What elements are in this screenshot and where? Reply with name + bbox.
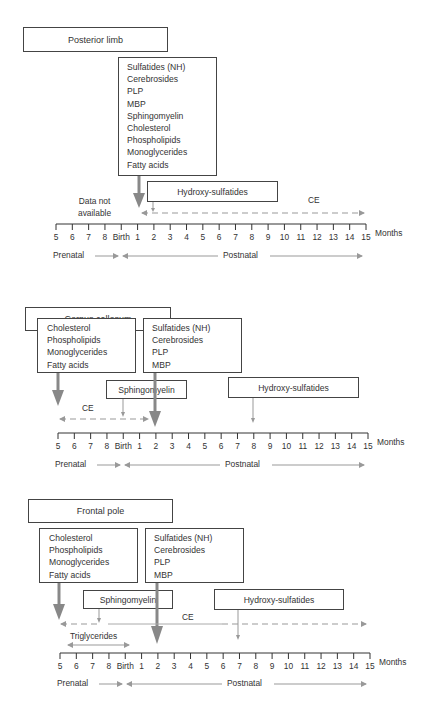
axis-tick-label: 5 [58,661,63,671]
axis-tick-label: 8 [249,232,254,242]
axis-tick-label: 15 [361,232,370,242]
large-arrow-icon [53,583,65,620]
large-arrow-icon [133,176,145,208]
prenatal-label: Prenatal [57,678,88,688]
axis-tick-label: 9 [268,441,273,451]
axis-tick-label: 8 [107,661,112,671]
axis-tick-label: 7 [235,441,240,451]
axis-tick-label: 5 [204,661,209,671]
axis-tick-label: 7 [90,661,95,671]
axis-tick-label: 7 [88,441,93,451]
axis-tick-label: 7 [233,232,238,242]
axis-tick-label: 11 [300,661,309,671]
axis-tick-label: 6 [72,441,77,451]
axis-tick-label: 5 [200,232,205,242]
axis-tick-label: 13 [333,661,342,671]
axis-tick-label: 14 [347,441,356,451]
axis-tick-label: 8 [253,661,258,671]
large-arrow-icon [149,373,161,427]
axis-tick-label: 8 [251,441,256,451]
axis-tick-label: 12 [312,232,321,242]
axis-tick-label: 1 [139,661,144,671]
axis-tick-label: 12 [316,661,325,671]
axis-tick-label: 3 [168,232,173,242]
axis-tick-label: 13 [329,232,338,242]
axis-tick-label: 5 [54,232,59,242]
axis-tick-label: 10 [282,441,291,451]
axis-tick-label: Birth [115,441,132,451]
axis-tick-label: 15 [363,441,372,451]
small-arrow-icon [251,398,255,423]
axis-tick-label: 9 [270,661,275,671]
axis-tick-label: 6 [74,661,79,671]
axis-tick-label: 8 [103,232,108,242]
prenatal-label: Prenatal [53,250,84,260]
axis-tick-label: 11 [296,232,305,242]
axis-tick-label: 12 [314,441,323,451]
axis-unit-label: Months [377,437,404,447]
axis-tick-label: 4 [186,441,191,451]
axis-tick-label: 6 [219,441,224,451]
axis-tick-label: 2 [156,661,161,671]
large-arrow-icon [52,373,64,406]
axis-tick-label: 3 [170,441,175,451]
axis-tick-label: 2 [154,441,159,451]
axis-tick-label: 9 [266,232,271,242]
axis-tick-label: 14 [345,232,354,242]
axis-tick-label: 1 [135,232,140,242]
axis-tick-label: 3 [172,661,177,671]
axis-tick-label: Birth [117,661,134,671]
axis-tick-label: 6 [217,232,222,242]
small-arrow-icon [236,610,240,640]
axis-unit-label: Months [379,657,406,667]
axis-tick-label: 14 [349,661,358,671]
axis-tick-label: 7 [86,232,91,242]
prenatal-label: Prenatal [55,459,86,469]
axis-tick-label: 1 [137,441,142,451]
postnatal-label: Postnatal [223,250,258,260]
axis-tick-label: 10 [280,232,289,242]
small-arrow-icon [97,609,101,623]
axis-tick-label: 11 [298,441,307,451]
axis-tick-label: 15 [365,661,374,671]
axis-tick-label: 6 [221,661,226,671]
postnatal-label: Postnatal [225,459,260,469]
axis-tick-label: 5 [56,441,61,451]
axis-tick-label: Birth [113,232,130,242]
axis-tick-label: 10 [284,661,293,671]
large-arrow-icon [151,583,163,644]
small-arrow-icon [151,202,155,212]
diagram-lines [0,0,441,710]
postnatal-label: Postnatal [227,678,262,688]
small-arrow-icon [121,399,125,417]
axis-tick-label: 5 [202,441,207,451]
axis-tick-label: 4 [188,661,193,671]
axis-tick-label: 8 [105,441,110,451]
axis-unit-label: Months [375,228,402,238]
axis-tick-label: 13 [331,441,340,451]
axis-tick-label: 4 [184,232,189,242]
axis-tick-label: 2 [152,232,157,242]
axis-tick-label: 6 [70,232,75,242]
axis-tick-label: 7 [237,661,242,671]
